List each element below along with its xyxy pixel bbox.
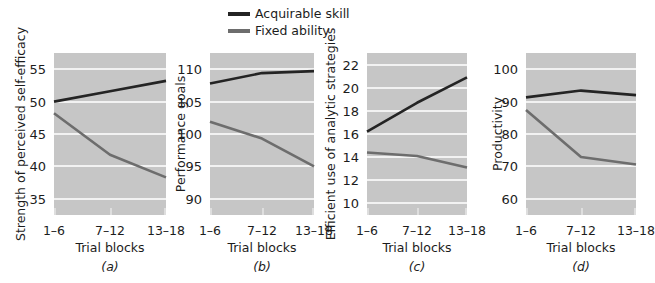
series-line-acquirable-skill — [526, 91, 636, 98]
series-line-fixed-ability — [526, 110, 636, 164]
